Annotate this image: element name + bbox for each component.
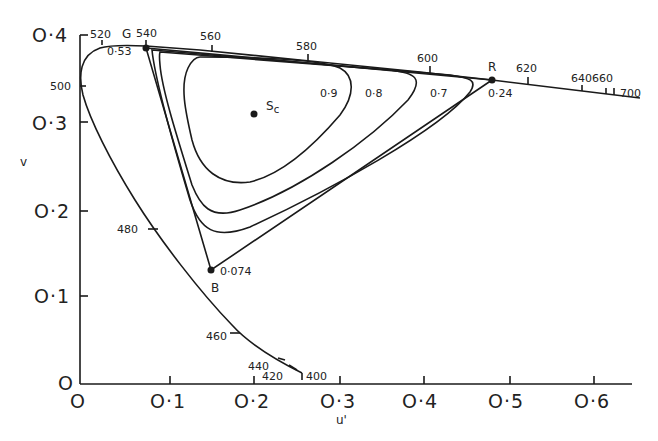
wavelength-660: 660 — [592, 72, 613, 85]
wavelength-500: 500 — [50, 80, 71, 93]
blue-primary-point — [208, 267, 215, 274]
contour-label-07: 0·7 — [430, 87, 448, 100]
x-tick-6: O·6 — [574, 390, 610, 412]
x-axis-label: u' — [336, 413, 347, 427]
y-tick-3: O·3 — [32, 112, 68, 134]
wavelength-560: 560 — [200, 30, 221, 43]
wavelength-460: 460 — [206, 330, 227, 343]
wavelength-520: 520 — [90, 28, 111, 41]
wavelength-540: 540 — [136, 27, 157, 40]
contour-08 — [160, 52, 417, 213]
blue-value: 0·074 — [220, 265, 252, 278]
red-primary-point — [489, 77, 496, 84]
wavelength-600: 600 — [417, 52, 438, 65]
wavelength-580: 580 — [296, 40, 317, 53]
y-tick-4: O·4 — [32, 24, 68, 46]
blue-label: B — [211, 281, 219, 295]
wavelength-640: 640 — [571, 72, 592, 85]
wavelength-440: 440 — [248, 360, 269, 373]
green-primary-point — [143, 45, 150, 52]
contour-09 — [184, 57, 351, 183]
red-value: 0·24 — [488, 87, 513, 100]
sc-label: Sc — [266, 99, 279, 115]
y-tick-0: O — [58, 372, 74, 394]
contour-label-08: 0·8 — [365, 87, 383, 100]
wavelength-700: 700 — [620, 87, 641, 100]
green-label: G — [122, 27, 131, 41]
sc-reference-point — [251, 111, 258, 118]
y-axis-label: v — [20, 155, 27, 169]
x-tick-4: O·4 — [402, 390, 438, 412]
x-tick-5: O·5 — [488, 390, 524, 412]
chromaticity-diagram: O O·1 O·2 O·3 O·4 O·5 O·6 O O·1 O·2 O·3 … — [0, 0, 658, 441]
x-tick-1: O·1 — [150, 390, 186, 412]
x-tick-2: O·2 — [234, 390, 270, 412]
y-tick-2: O·2 — [34, 200, 70, 222]
contour-07 — [152, 50, 473, 233]
wavelength-480: 480 — [117, 223, 138, 236]
x-tick-3: O·3 — [320, 390, 356, 412]
y-tick-1: O·1 — [34, 285, 70, 307]
green-value: 0·53 — [107, 45, 132, 58]
red-label: R — [488, 60, 496, 74]
contour-label-09: 0·9 — [320, 87, 338, 100]
wavelength-400: 400 — [306, 370, 327, 383]
primary-triangle — [146, 48, 492, 270]
wavelength-620: 620 — [516, 62, 537, 75]
